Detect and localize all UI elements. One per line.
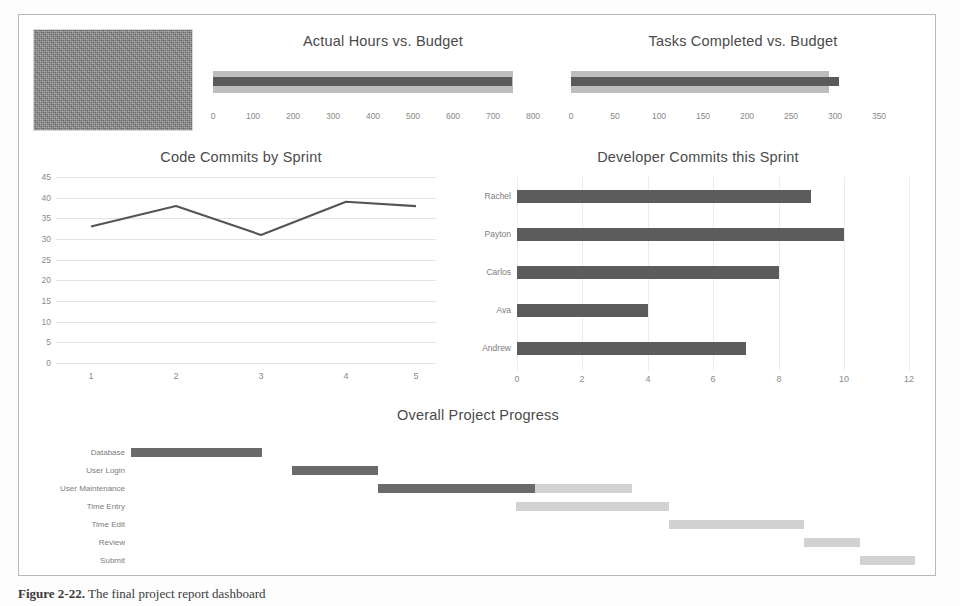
xtick-sprint-4: 4 <box>343 371 348 381</box>
xtick-150: 150 <box>696 111 710 121</box>
figure-caption-label: Figure 2-22. <box>18 586 85 601</box>
plot-area-overall-progress: Database User Login User Maintenance Tim… <box>19 401 937 573</box>
gantt-label-user-login: User Login <box>19 466 125 475</box>
vgridline-8 <box>779 177 780 371</box>
gantt-label-time-entry: Time Entry <box>19 502 125 511</box>
xtick-250: 250 <box>784 111 798 121</box>
xtick-300: 300 <box>828 111 842 121</box>
xtick-0: 0 <box>211 111 216 121</box>
gantt-label-user-maintenance: User Maintenance <box>19 484 125 493</box>
gantt-label-submit: Submit <box>19 556 125 565</box>
xtick-dev-0: 0 <box>514 374 519 384</box>
xtick-dev-8: 8 <box>776 374 781 384</box>
gantt-bar-time-entry-remaining <box>516 502 669 511</box>
x-axis-actual-hours: 0 100 200 300 400 500 600 700 800 <box>203 111 563 125</box>
figure-caption-text: The final project report dashboard <box>88 586 266 601</box>
xtick-dev-4: 4 <box>645 374 650 384</box>
xtick-dev-2: 2 <box>579 374 584 384</box>
hbar-payton <box>517 228 844 241</box>
xtick-sprint-5: 5 <box>413 371 418 381</box>
gantt-label-time-edit: Time Edit <box>19 520 125 529</box>
bar-actual-hours <box>213 77 512 86</box>
line-series-commits <box>21 145 461 387</box>
xtick-100: 100 <box>652 111 666 121</box>
plot-area-code-commits: 45 40 35 30 25 20 15 10 5 0 1 2 3 4 5 <box>21 145 461 387</box>
gantt-bar-review-remaining <box>804 538 860 547</box>
xtick-400: 400 <box>366 111 380 121</box>
vgridline-10 <box>844 177 845 371</box>
gantt-label-database: Database <box>19 448 125 457</box>
chart-tasks-completed-vs-budget[interactable]: Tasks Completed vs. Budget 0 50 100 150 … <box>557 25 929 137</box>
xtick-sprint-2: 2 <box>173 371 178 381</box>
xtick-500: 500 <box>406 111 420 121</box>
figure-page: Actual Hours vs. Budget 0 100 200 300 40… <box>0 0 960 606</box>
gantt-bar-user-maintenance-remaining <box>535 484 632 493</box>
plot-area-developer-commits: Rachel Payton Carlos Ava Andrew 0 2 4 6 <box>459 145 937 387</box>
hbar-label-payton: Payton <box>459 229 511 239</box>
xtick-dev-10: 10 <box>839 374 849 384</box>
hbar-ava <box>517 304 648 317</box>
project-report-dashboard: Actual Hours vs. Budget 0 100 200 300 40… <box>18 14 936 576</box>
gantt-bar-submit-remaining <box>860 556 915 565</box>
xtick-sprint-1: 1 <box>88 371 93 381</box>
xtick-dev-12: 12 <box>904 374 914 384</box>
xtick-200: 200 <box>740 111 754 121</box>
xtick-300: 300 <box>326 111 340 121</box>
xtick-dev-6: 6 <box>710 374 715 384</box>
hbar-label-andrew: Andrew <box>459 343 511 353</box>
chart-code-commits-by-sprint[interactable]: Code Commits by Sprint 45 40 35 30 <box>21 145 461 387</box>
hbar-andrew <box>517 342 746 355</box>
gantt-bar-time-edit-remaining <box>669 520 804 529</box>
hbar-label-ava: Ava <box>459 305 511 315</box>
xtick-200: 200 <box>286 111 300 121</box>
xtick-600: 600 <box>446 111 460 121</box>
gantt-bar-user-maintenance-done <box>378 484 535 493</box>
figure-caption: Figure 2-22. The final project report da… <box>18 586 658 604</box>
bar-completed-tasks <box>571 77 839 86</box>
logo-placeholder-image <box>33 29 193 131</box>
xtick-sprint-3: 3 <box>258 371 263 381</box>
chart-developer-commits[interactable]: Developer Commits this Sprint Rachel Pay… <box>459 145 937 387</box>
gantt-bar-database-done <box>131 448 262 457</box>
chart-overall-project-progress[interactable]: Overall Project Progress Database User L… <box>19 401 937 573</box>
vgridline-12 <box>909 177 910 371</box>
chart-actual-hours-vs-budget[interactable]: Actual Hours vs. Budget 0 100 200 300 40… <box>203 25 563 137</box>
x-axis-tasks-completed: 0 50 100 150 200 250 300 350 <box>557 111 929 125</box>
xtick-100: 100 <box>246 111 260 121</box>
xtick-700: 700 <box>486 111 500 121</box>
hbar-label-rachel: Rachel <box>459 191 511 201</box>
hbar-carlos <box>517 266 779 279</box>
xtick-0: 0 <box>569 111 574 121</box>
xtick-50: 50 <box>610 111 619 121</box>
gantt-bar-user-login-done <box>292 466 378 475</box>
gantt-label-review: Review <box>19 538 125 547</box>
xtick-800: 800 <box>526 111 540 121</box>
hbar-label-carlos: Carlos <box>459 267 511 277</box>
xtick-350: 350 <box>872 111 886 121</box>
hbar-rachel <box>517 190 811 203</box>
